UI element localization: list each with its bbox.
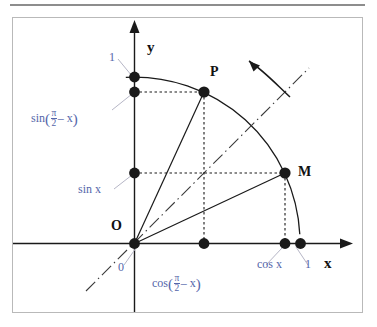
unit-circle-arc xyxy=(126,77,300,234)
rotation-arrowhead xyxy=(249,61,260,72)
y-axis-label: y xyxy=(147,40,155,55)
sin-complement-paren-close: ) xyxy=(73,111,78,127)
point-label-M: M xyxy=(298,165,311,179)
sin-complement-tail: – x xyxy=(58,111,73,125)
leader-sin-complement xyxy=(112,94,132,110)
sin-complement-prefix: sin xyxy=(31,111,45,125)
rotation-arrow xyxy=(249,61,290,97)
cos-complement-paren-close: ) xyxy=(196,276,201,292)
cos-complement-fraction: π2 xyxy=(174,274,181,295)
point-P xyxy=(198,86,209,97)
point-y-unit xyxy=(129,72,140,83)
sin-complement-fraction: π2 xyxy=(51,109,58,130)
point-M xyxy=(279,167,290,178)
figure-frame: y x O P M 1 1 0 sin x cos x sin(π2– x) c… xyxy=(12,17,363,313)
cos-x-label: cos x xyxy=(257,258,282,270)
point-label-P: P xyxy=(210,65,219,79)
sin-complement-paren-open: ( xyxy=(45,111,50,127)
point-sin-x xyxy=(129,168,140,179)
point-x-unit xyxy=(295,238,306,249)
top-horizontal-rule xyxy=(10,4,365,6)
y-axis-arrowhead xyxy=(130,20,140,33)
origin-zero-label: 0 xyxy=(118,261,124,273)
cos-complement-tail: – x xyxy=(181,276,196,290)
radius-OP xyxy=(135,92,205,244)
sin-complement-denominator: 2 xyxy=(51,119,58,129)
leader-y-unit xyxy=(118,59,132,76)
cos-complement-denominator: 2 xyxy=(174,284,181,294)
sin-x-label: sin x xyxy=(78,183,101,195)
x-axis-arrowhead xyxy=(340,239,353,249)
leader-sin-x xyxy=(114,175,132,189)
figure-page: y x O P M 1 1 0 sin x cos x sin(π2– x) c… xyxy=(0,0,377,327)
cos-complement-paren-open: ( xyxy=(168,276,173,292)
point-cos-x xyxy=(280,238,291,249)
cos-complement-label: cos(π2– x) xyxy=(152,274,201,295)
y-unit-label: 1 xyxy=(109,51,115,63)
point-origin xyxy=(129,238,140,249)
origin-label: O xyxy=(111,219,122,233)
point-cos-complement xyxy=(199,238,210,249)
sin-complement-label: sin(π2– x) xyxy=(31,109,78,130)
x-unit-label: 1 xyxy=(305,258,311,270)
cos-complement-prefix: cos xyxy=(152,276,168,290)
radius-OM xyxy=(135,173,286,244)
x-axis-label: x xyxy=(324,256,332,271)
point-sin-complement xyxy=(129,87,140,98)
